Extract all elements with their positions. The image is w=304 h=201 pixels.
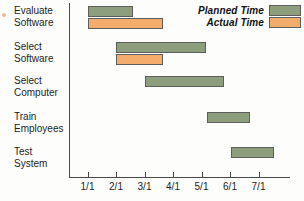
task-label: Select Software: [14, 41, 68, 64]
x-axis-tick: [259, 172, 260, 178]
x-axis-tick-label: 3/1: [137, 181, 151, 192]
x-axis-tick-label: 7/1: [251, 181, 265, 192]
y-axis-line: [69, 3, 70, 178]
legend-item-actual: Actual Time: [185, 16, 301, 28]
x-axis-tick: [173, 172, 174, 178]
x-axis-tick-label: 2/1: [109, 181, 123, 192]
x-axis-tick-label: 1/1: [80, 181, 94, 192]
planned-bar: [88, 6, 134, 17]
x-axis-tick: [230, 172, 231, 178]
x-axis-tick-label: 6/1: [223, 181, 237, 192]
x-axis-tick: [145, 172, 146, 178]
x-axis-line: [69, 177, 290, 178]
x-axis-tick: [116, 172, 117, 178]
x-axis-tick: [202, 172, 203, 178]
x-axis-tick-label: 5/1: [194, 181, 208, 192]
task-label: Select Computer: [14, 75, 68, 98]
actual-bar: [116, 54, 163, 65]
gantt-chart: 1/12/13/14/15/16/17/1 Evaluate SoftwareS…: [0, 0, 304, 201]
chart-legend: Planned Time Actual Time: [185, 4, 301, 30]
task-label: Train Employees: [14, 111, 68, 134]
legend-label-actual: Actual Time: [206, 17, 264, 28]
actual-bar: [88, 18, 164, 29]
task-label: Test System: [14, 146, 68, 169]
legend-swatch-planned: [269, 5, 301, 16]
legend-label-planned: Planned Time: [198, 5, 264, 16]
planned-bar: [116, 42, 206, 53]
x-axis-tick-label: 4/1: [166, 181, 180, 192]
x-axis-tick: [88, 172, 89, 178]
scan-artifact-speck: [2, 13, 6, 17]
legend-item-planned: Planned Time: [185, 4, 301, 16]
planned-bar: [231, 147, 274, 158]
task-label: Evaluate Software: [14, 5, 68, 28]
planned-bar: [207, 112, 250, 123]
legend-swatch-actual: [269, 17, 301, 28]
planned-bar: [145, 76, 225, 87]
